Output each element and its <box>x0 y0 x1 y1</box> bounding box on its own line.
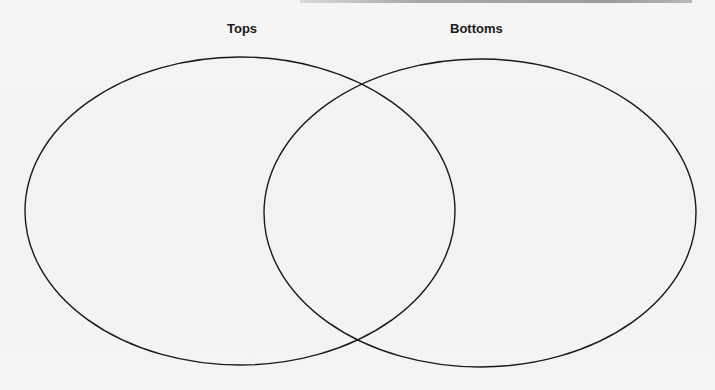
venn-diagram-canvas: Tops Bottoms <box>0 0 715 390</box>
ellipse-tops <box>25 57 455 365</box>
venn-svg <box>0 0 715 390</box>
ellipse-bottoms <box>264 59 696 367</box>
